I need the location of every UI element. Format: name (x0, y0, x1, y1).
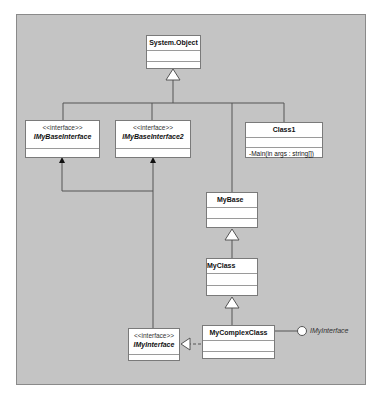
operation-main: -Main(in args : string[]) (246, 148, 322, 159)
operations-section (147, 62, 200, 72)
realization-arrow-icon (181, 338, 190, 350)
stereotype-label: <<interface>> (118, 123, 188, 132)
interface-imyinterface[interactable]: <<interface>> IMyInterface (128, 328, 180, 361)
interface-name: IMyBaseInterface2 (118, 132, 188, 141)
interface-imybaseinterface[interactable]: <<interface>> IMyBaseInterface (25, 120, 100, 158)
lollipop-interface-label: IMyInterface (310, 327, 349, 334)
class-name: MyComplexClass (205, 328, 272, 337)
class-myclass[interactable]: MyClass (206, 258, 258, 296)
class-mycomplexclass[interactable]: MyComplexClass (202, 325, 275, 359)
operations-section (203, 352, 274, 362)
interface-lollipop-icon (298, 327, 307, 336)
operations-section (26, 149, 99, 159)
interface-name: IMyBaseInterface (28, 132, 97, 141)
stereotype-label: <<interface>> (131, 331, 177, 340)
generalization-arrow-icon (225, 229, 239, 240)
generalization-arrow-icon (225, 297, 239, 308)
attributes-section (203, 341, 274, 352)
attributes-section (147, 51, 200, 62)
class-class1[interactable]: Class1 -Main(in args : string[]) (245, 122, 323, 158)
interface-imybaseinterface2[interactable]: <<interface>> IMyBaseInterface2 (115, 120, 191, 158)
class-mybase[interactable]: MyBase (206, 192, 258, 228)
operations-section (116, 149, 190, 159)
interface-name: IMyInterface (131, 340, 177, 349)
attributes-section (207, 208, 257, 219)
attributes-section (246, 138, 322, 148)
operations-section (207, 286, 257, 297)
class-system-object[interactable]: System.Object (146, 35, 201, 69)
operations-section (207, 219, 257, 229)
operations-section (129, 355, 179, 365)
class-name: MyBase (217, 195, 255, 204)
class-name: Class1 (248, 125, 320, 134)
attributes-section (207, 274, 257, 286)
class-name: MyClass (207, 261, 255, 270)
class-name: System.Object (149, 38, 198, 47)
stereotype-label: <<interface>> (28, 123, 97, 132)
